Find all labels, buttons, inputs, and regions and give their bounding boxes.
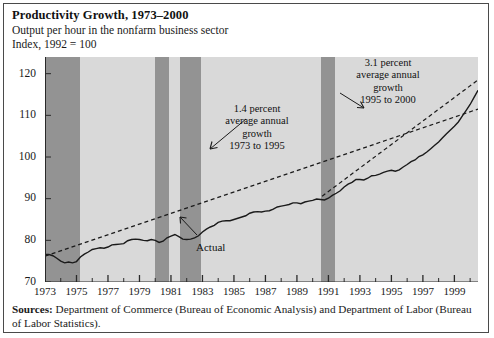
y-tick-120: 120: [10, 67, 36, 79]
annotation-trend1-line4: 1973 to 1995: [202, 140, 312, 152]
annotation-trend1: 1.4 percent average annual growth 1973 t…: [202, 103, 312, 152]
y-tick-80: 80: [10, 233, 36, 245]
figure-index-note: Index, 1992 = 100: [12, 38, 96, 50]
annotation-trend2-line2: average annual: [333, 69, 443, 81]
x-tick-1999: 1999: [436, 285, 472, 297]
y-tick-90: 90: [10, 191, 36, 203]
annotation-trend1-line3: growth: [202, 128, 312, 140]
annotation-trend2: 3.1 percent average annual growth 1995 t…: [333, 57, 443, 106]
annotation-trend2-line1: 3.1 percent: [333, 57, 443, 69]
y-tick-100: 100: [10, 150, 36, 162]
page-title: Productivity Growth, 1973–2000: [12, 8, 189, 23]
annotation-trend2-line4: 1995 to 2000: [333, 94, 443, 106]
figure-page: Productivity Growth, 1973–2000 Output pe…: [0, 0, 494, 338]
sources-label: Sources:: [12, 303, 53, 315]
sources-note: Sources: Department of Commerce (Bureau …: [12, 303, 474, 330]
sources-text: Department of Commerce (Bureau of Econom…: [12, 303, 472, 329]
annotation-actual: Actual: [196, 241, 225, 253]
annotation-trend1-line2: average annual: [202, 115, 312, 127]
arrow-actual: [180, 217, 197, 235]
annotation-trend1-line1: 1.4 percent: [202, 103, 312, 115]
annotation-trend2-line3: growth: [333, 82, 443, 94]
figure-subtitle: Output per hour in the nonfarm business …: [12, 24, 228, 36]
y-tick-110: 110: [10, 108, 36, 120]
